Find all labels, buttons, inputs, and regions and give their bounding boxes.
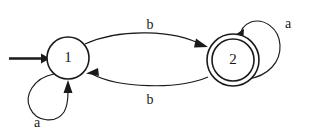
transition-one-to-two-path [85, 33, 202, 45]
transition-one-to-two-label: b [147, 17, 154, 32]
state-node-2[interactable]: 2 [207, 34, 259, 86]
state-diagram-svg: b b a a 1 2 [0, 0, 311, 137]
transition-two-self-loop-label: a [285, 16, 292, 31]
state-1-label: 1 [64, 49, 72, 65]
transition-one-self-loop-arrowhead [64, 80, 73, 93]
transition-one-to-two-arrowhead [194, 39, 208, 48]
transition-one-self-loop-path [28, 74, 68, 120]
transition-one-self-loop[interactable]: a [28, 74, 72, 130]
transition-two-to-one[interactable]: b [86, 68, 208, 107]
transition-two-to-one-label: b [147, 92, 154, 107]
state-2-label: 2 [229, 51, 237, 67]
state-node-1[interactable]: 1 [47, 37, 89, 79]
transition-one-self-loop-label: a [34, 115, 41, 130]
automaton-canvas: b b a a 1 2 [0, 0, 311, 137]
start-arrow [9, 54, 50, 64]
transition-two-to-one-path [92, 74, 208, 86]
transition-one-to-two[interactable]: b [85, 17, 208, 47]
